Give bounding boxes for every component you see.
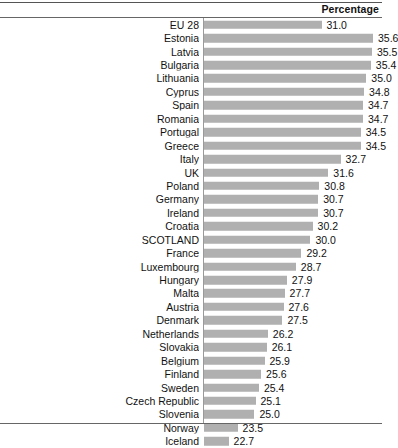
bar: [204, 289, 285, 298]
bar: [204, 155, 341, 164]
bar-category-label: Sweden: [0, 382, 199, 393]
bar-value-label: 31.6: [333, 167, 353, 178]
bar-category-label: Denmark: [0, 315, 199, 326]
bar-value-label: 22.7: [234, 436, 254, 447]
bar-plot-area: 30.0: [204, 233, 382, 246]
bar-plot-area: 30.8: [204, 179, 382, 192]
bar: [204, 128, 361, 137]
bar: [204, 195, 318, 204]
bar: [204, 115, 363, 124]
bar-plot-area: 26.2: [204, 327, 382, 340]
bar-category-label: Belgium: [0, 355, 199, 366]
bar-category-label: Croatia: [0, 221, 199, 232]
bar: [204, 330, 268, 339]
bar-plot-area: 34.8: [204, 85, 382, 98]
bar: [204, 303, 284, 312]
bar-plot-area: 35.5: [204, 45, 382, 58]
bar: [204, 276, 287, 285]
bar-category-label: Netherlands: [0, 328, 199, 339]
bar-value-label: 30.7: [323, 194, 343, 205]
bar-value-label: 34.5: [366, 127, 386, 138]
bar-category-label: SCOTLAND: [0, 234, 199, 245]
bar-value-label: 30.8: [324, 180, 344, 191]
bar: [204, 437, 229, 446]
bar-plot-area: 31.0: [204, 18, 382, 31]
bar-plot-area: 25.9: [204, 354, 382, 367]
bar-row: Cyprus34.8: [0, 85, 382, 98]
bar-category-label: Spain: [0, 100, 199, 111]
bar-plot-area: 28.7: [204, 260, 382, 273]
bar-row: Netherlands26.2: [0, 327, 382, 340]
bar-category-label: Portugal: [0, 127, 199, 138]
bar-value-label: 25.4: [264, 382, 284, 393]
bar-plot-area: 30.7: [204, 193, 382, 206]
bar-plot-area: 26.1: [204, 341, 382, 354]
bar-value-label: 28.7: [301, 261, 321, 272]
bar-row: Croatia30.2: [0, 220, 382, 233]
bar-value-label: 29.2: [306, 248, 326, 259]
bar-value-label: 30.2: [318, 221, 338, 232]
bar-category-label: Slovenia: [0, 409, 199, 420]
bar-category-label: France: [0, 248, 199, 259]
bar-plot-area: 34.7: [204, 99, 382, 112]
bar-category-label: Estonia: [0, 33, 199, 44]
bar: [204, 370, 261, 379]
bar-category-label: Finland: [0, 369, 199, 380]
bar-row: Malta27.7: [0, 287, 382, 300]
bar-value-label: 25.0: [259, 409, 279, 420]
bar: [204, 262, 296, 271]
bar-plot-area: 25.6: [204, 367, 382, 380]
bar-value-label: 34.7: [368, 100, 388, 111]
bar-plot-area: 35.4: [204, 58, 382, 71]
bar-value-label: 35.0: [371, 73, 391, 84]
bar-row: Latvia35.5: [0, 45, 382, 58]
bar-rows: EU 2831.0Estonia35.6Latvia35.5Bulgaria35…: [0, 18, 382, 448]
bar-category-label: Cyprus: [0, 86, 199, 97]
bar: [204, 61, 371, 70]
bar-plot-area: 31.6: [204, 166, 382, 179]
bar-category-label: EU 28: [0, 19, 199, 30]
bar-row: Austria27.6: [0, 300, 382, 313]
bar-value-label: 34.8: [369, 86, 389, 97]
bar: [204, 20, 322, 29]
bar-row: EU 2831.0: [0, 18, 382, 31]
bar: [204, 424, 238, 433]
bar-row: Iceland22.7: [0, 435, 382, 448]
bar: [204, 47, 372, 56]
bar: [204, 383, 259, 392]
bar-plot-area: 27.6: [204, 300, 382, 313]
bar-value-label: 25.9: [270, 355, 290, 366]
bar-value-label: 25.6: [266, 369, 286, 380]
bar-plot-area: 22.7: [204, 435, 382, 448]
bar-row: Hungary27.9: [0, 273, 382, 286]
bar-row: Portugal34.5: [0, 126, 382, 139]
bar-row: Slovenia25.0: [0, 408, 382, 421]
bar-row: Belgium25.9: [0, 354, 382, 367]
bar-plot-area: 32.7: [204, 152, 382, 165]
bar-value-label: 27.5: [287, 315, 307, 326]
bar-plot-area: 30.2: [204, 220, 382, 233]
bar-plot-area: 27.7: [204, 287, 382, 300]
bar-plot-area: 25.1: [204, 394, 382, 407]
bar-value-label: 27.9: [292, 275, 312, 286]
bar-row: Estonia35.6: [0, 31, 382, 44]
bar-value-label: 26.2: [273, 328, 293, 339]
bar-row: Romania34.7: [0, 112, 382, 125]
value-column-header: Percentage: [321, 3, 379, 15]
bar-row: Germany30.7: [0, 193, 382, 206]
bar: [204, 356, 265, 365]
bar-row: Greece34.5: [0, 139, 382, 152]
bar-value-label: 27.7: [290, 288, 310, 299]
bar: [204, 235, 310, 244]
bar-row: SCOTLAND30.0: [0, 233, 382, 246]
bar-row: Luxembourg28.7: [0, 260, 382, 273]
bar-row: Ireland30.7: [0, 206, 382, 219]
bar-category-label: Greece: [0, 140, 199, 151]
bar-value-label: 35.6: [378, 33, 398, 44]
bar-category-label: Romania: [0, 113, 199, 124]
bar-category-label: Iceland: [0, 436, 199, 447]
bar-row: UK31.6: [0, 166, 382, 179]
bar-category-label: Italy: [0, 154, 199, 165]
bar-plot-area: 35.0: [204, 72, 382, 85]
